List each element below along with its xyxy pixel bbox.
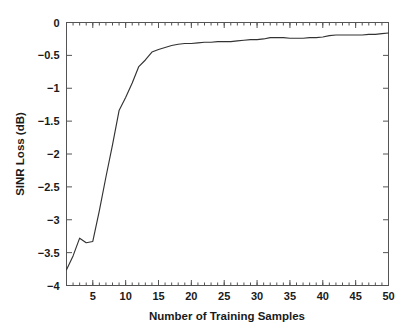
x-axis-tick-label: 40 [317, 290, 329, 302]
y-axis-tick-label: −2 [47, 148, 60, 160]
x-axis-title: Number of Training Samples [149, 310, 305, 322]
y-axis-tick-label: −0.5 [38, 49, 60, 61]
x-axis-tick-label: 25 [218, 290, 230, 302]
chart-page: 5101520253035404550 0−0.5−1−1.5−2−2.5−3−… [0, 0, 412, 332]
x-axis-tick-label: 20 [185, 290, 197, 302]
y-axis-tick-label: −2.5 [38, 181, 60, 193]
x-axis-tick-label: 30 [251, 290, 263, 302]
sinr-loss-line-chart: 5101520253035404550 0−0.5−1−1.5−2−2.5−3−… [0, 0, 412, 332]
chart-background [0, 0, 412, 332]
x-axis-tick-label: 45 [350, 290, 362, 302]
y-axis-tick-label: −3 [47, 214, 60, 226]
x-axis-tick-label: 50 [382, 290, 394, 302]
x-axis-tick-label: 5 [90, 290, 96, 302]
y-axis-tick-label: −4 [47, 280, 60, 292]
y-axis-tick-label: −3.5 [38, 247, 60, 259]
y-axis-tick-label: −1.5 [38, 115, 60, 127]
x-axis-tick-label: 15 [152, 290, 164, 302]
x-axis-tick-label: 35 [284, 290, 296, 302]
y-axis-tick-label: 0 [53, 17, 59, 29]
y-axis-title: SINR Loss (dB) [14, 112, 26, 196]
y-axis-tick-label: −1 [47, 82, 60, 94]
x-axis-tick-label: 10 [120, 290, 132, 302]
